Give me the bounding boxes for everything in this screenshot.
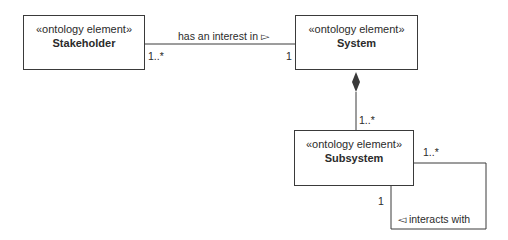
composition-diamond-icon <box>352 72 360 92</box>
stakeholder-name: Stakeholder <box>24 36 144 50</box>
interacts-target-multiplicity: 1..* <box>423 146 439 158</box>
system-name: System <box>296 36 417 50</box>
interacts-source-multiplicity: 1 <box>378 195 384 207</box>
subsystem-stereotype: «ontology element» <box>295 137 413 151</box>
interest-label: has an interest in ▻ <box>178 30 269 42</box>
subsystem-name: Subsystem <box>295 151 413 165</box>
interest-target-multiplicity: 1 <box>286 50 292 62</box>
subsystem-element[interactable]: «ontology element» Subsystem <box>294 130 414 186</box>
composition-target-multiplicity: 1..* <box>359 114 375 126</box>
system-stereotype: «ontology element» <box>296 22 417 36</box>
system-element[interactable]: «ontology element» System <box>295 15 418 70</box>
stakeholder-element[interactable]: «ontology element» Stakeholder <box>23 15 145 70</box>
interacts-label: ◅ interacts with <box>398 213 470 225</box>
interest-source-multiplicity: 1..* <box>148 50 164 62</box>
stakeholder-stereotype: «ontology element» <box>24 22 144 36</box>
